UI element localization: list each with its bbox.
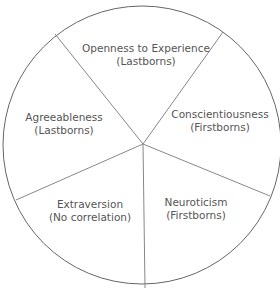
segment-extraversion: Extraversion (No correlation) <box>49 198 131 224</box>
segment-neuroticism-trait: Neuroticism <box>165 196 228 209</box>
segment-openness-trait: Openness to Experience <box>82 42 210 55</box>
segment-conscientiousness-association: (Firstborns) <box>171 121 268 134</box>
segment-agreeableness: Agreeableness (Lastborns) <box>25 111 102 137</box>
segment-conscientiousness-trait: Conscientiousness <box>171 108 268 121</box>
segment-agreeableness-association: (Lastborns) <box>25 124 102 137</box>
segment-neuroticism-association: (Firstborns) <box>165 209 228 222</box>
segment-openness-association: (Lastborns) <box>82 55 210 68</box>
segment-openness: Openness to Experience (Lastborns) <box>82 42 210 68</box>
segment-extraversion-trait: Extraversion <box>49 198 131 211</box>
segment-neuroticism: Neuroticism (Firstborns) <box>165 196 228 222</box>
segment-conscientiousness: Conscientiousness (Firstborns) <box>171 108 268 134</box>
segment-agreeableness-trait: Agreeableness <box>25 111 102 124</box>
segment-extraversion-association: (No correlation) <box>49 211 131 224</box>
